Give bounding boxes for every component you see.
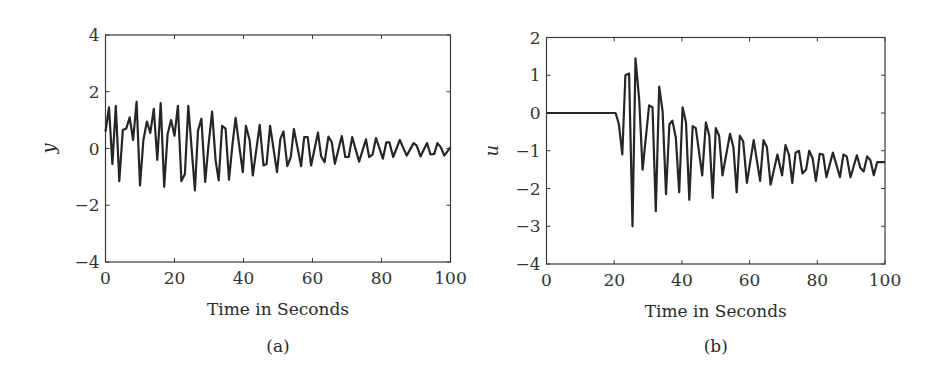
x-tick-label: 100 — [434, 268, 466, 288]
x-axis-title: Time in Seconds — [207, 299, 349, 319]
x-tick-label: 0 — [100, 268, 111, 288]
y-tick-label: 4 — [89, 25, 100, 45]
x-tick-label: 20 — [164, 268, 186, 288]
y-tick-label: −2 — [74, 195, 99, 215]
y-tick-label: −4 — [515, 254, 540, 274]
x-tick-label: 40 — [671, 270, 693, 290]
y-axis-title: u — [481, 145, 502, 157]
x-tick-label: 60 — [739, 270, 761, 290]
x-tick-label: 80 — [371, 268, 393, 288]
panel-a-line-chart: 020406080100−4−2024Time in Secondsy(a) — [38, 25, 467, 356]
series-line-y — [106, 102, 451, 191]
y-tick-label: 2 — [89, 82, 100, 102]
x-tick-label: 60 — [302, 268, 324, 288]
y-tick-label: 0 — [530, 103, 541, 123]
x-tick-label: 0 — [541, 270, 552, 290]
x-tick-label: 80 — [806, 270, 828, 290]
panel-b-line-chart: 020406080100−4−3−2−1012Time in Secondsu(… — [481, 28, 901, 357]
x-tick-label: 20 — [603, 270, 625, 290]
x-tick-label: 100 — [869, 270, 901, 290]
y-axis-title: y — [38, 143, 59, 155]
y-tick-label: −3 — [515, 216, 540, 236]
x-axis-title: Time in Seconds — [645, 301, 787, 321]
y-tick-label: 2 — [530, 28, 541, 48]
panel-caption: (a) — [266, 336, 289, 356]
figure: 020406080100−4−2024Time in Secondsy(a) 0… — [0, 0, 941, 379]
y-tick-label: −1 — [515, 141, 540, 161]
y-tick-label: 1 — [530, 65, 541, 85]
x-tick-label: 40 — [233, 268, 255, 288]
series-line-u — [547, 58, 886, 226]
y-tick-label: −2 — [515, 179, 540, 199]
y-tick-label: 0 — [89, 139, 100, 159]
y-tick-label: −4 — [74, 252, 99, 272]
panel-caption: (b) — [704, 336, 728, 356]
